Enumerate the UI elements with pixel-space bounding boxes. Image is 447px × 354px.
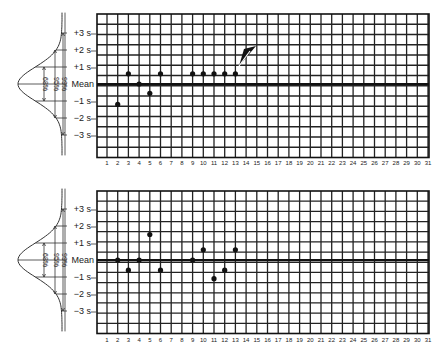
x-tick-label: 25 [360,160,367,166]
x-tick-label: 11 [211,160,218,166]
data-point [211,276,216,281]
x-tick-label: 26 [371,337,378,343]
x-tick-label: 22 [328,337,335,343]
x-tick-label: 14 [243,160,250,166]
x-tick-label: 15 [253,337,260,343]
chart-1: 1234567891011121314151617181920212223242… [18,13,432,166]
data-point [147,232,152,237]
x-tick-label: 24 [350,337,357,343]
y-tick-label: +1 s [74,238,92,248]
y-tick-label: −2 s [74,113,92,123]
data-point [190,71,195,76]
x-tick-label: 31 [425,160,432,166]
x-tick-label: 17 [275,160,282,166]
data-point [126,268,131,273]
x-tick-label: 18 [286,337,293,343]
x-tick-label: 29 [403,337,410,343]
x-tick-label: 16 [264,160,271,166]
x-tick-label: 19 [296,160,303,166]
x-tick-label: 27 [382,337,389,343]
x-tick-label: 1 [105,337,109,343]
percent-label: 99% [61,253,68,267]
x-tick-label: 19 [296,337,303,343]
x-tick-label: 12 [221,160,228,166]
x-tick-label: 16 [264,337,271,343]
data-point [233,71,238,76]
x-tick-label: 21 [318,337,325,343]
x-tick-label: 13 [232,160,239,166]
x-tick-label: 9 [191,337,195,343]
x-tick-label: 6 [159,337,163,343]
x-tick-label: 24 [350,160,357,166]
x-tick-label: 30 [414,160,421,166]
x-tick-label: 23 [339,337,346,343]
x-tick-label: 13 [232,337,239,343]
x-tick-label: 15 [253,160,260,166]
data-point [190,257,195,262]
percent-label: 95% [53,253,60,267]
chart-2: 1234567891011121314151617181920212223242… [18,189,432,343]
y-tick-label: −3 s [74,130,92,140]
x-tick-label: 11 [211,337,218,343]
x-tick-label: 6 [159,160,163,166]
y-tick-label: +2 s [74,221,92,231]
percent-label: 68% [42,253,49,267]
y-tick-label: Mean [71,255,94,265]
x-tick-label: 27 [382,160,389,166]
x-tick-label: 21 [318,160,325,166]
data-point [126,71,131,76]
x-tick-label: 28 [393,337,400,343]
data-point [211,71,216,76]
x-tick-label: 5 [148,337,152,343]
y-tick-label: +1 s [74,62,92,72]
data-point [201,247,206,252]
y-tick-label: −3 s [74,306,92,316]
data-point [137,81,142,86]
y-tick-label: Mean [71,79,94,89]
x-tick-label: 4 [137,337,141,343]
x-tick-label: 3 [127,160,131,166]
x-tick-label: 10 [200,337,207,343]
y-tick-label: +3 s [74,28,92,38]
data-point [222,71,227,76]
x-tick-label: 12 [221,337,228,343]
x-tick-label: 8 [180,337,184,343]
x-tick-label: 18 [286,160,293,166]
percent-label: 99% [61,77,68,91]
data-point [222,268,227,273]
levey-jennings-charts: 1234567891011121314151617181920212223242… [0,0,447,354]
x-tick-label: 7 [170,337,174,343]
x-tick-label: 9 [191,160,195,166]
x-tick-label: 2 [116,160,120,166]
x-tick-label: 20 [307,160,314,166]
x-tick-label: 3 [127,337,131,343]
data-point [137,257,142,262]
x-tick-label: 31 [425,337,432,343]
data-point [201,71,206,76]
y-tick-label: −1 s [74,96,92,106]
x-tick-label: 29 [403,160,410,166]
x-tick-label: 5 [148,160,152,166]
x-tick-label: 7 [170,160,174,166]
data-point [233,247,238,252]
x-tick-label: 20 [307,337,314,343]
x-tick-label: 14 [243,337,250,343]
data-point [147,91,152,96]
x-tick-label: 23 [339,160,346,166]
y-tick-label: +2 s [74,45,92,55]
y-tick-label: −2 s [74,289,92,299]
y-tick-label: −1 s [74,272,92,282]
x-tick-label: 10 [200,160,207,166]
percent-label: 68% [42,77,49,91]
x-tick-label: 22 [328,160,335,166]
x-tick-label: 28 [393,160,400,166]
x-tick-label: 26 [371,160,378,166]
percent-label: 95% [53,77,60,91]
y-tick-label: +3 s [74,204,92,214]
data-point [158,268,163,273]
x-tick-label: 1 [105,160,109,166]
x-tick-label: 17 [275,337,282,343]
x-tick-label: 25 [360,337,367,343]
data-point [115,257,120,262]
x-tick-label: 30 [414,337,421,343]
